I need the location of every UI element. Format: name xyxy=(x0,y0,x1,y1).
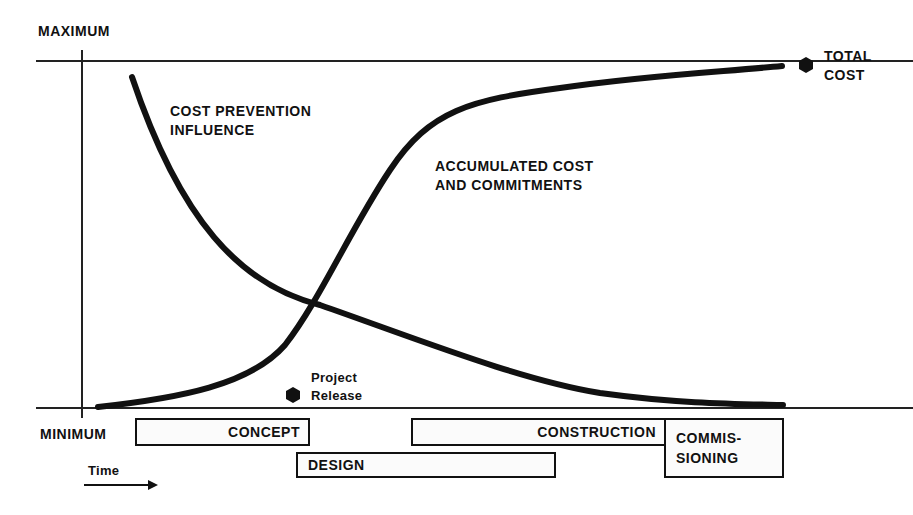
project-release-marker-icon xyxy=(286,387,300,403)
maximum-label: MAXIMUM xyxy=(38,22,110,41)
time-arrow-icon xyxy=(148,480,158,490)
cost-prevention-label-line1: COST PREVENTION xyxy=(170,102,311,121)
phase-commissioning-label-line2: SIONING xyxy=(676,448,739,468)
phase-design: DESIGN xyxy=(296,452,556,478)
total-cost-label-line1: TOTAL xyxy=(824,47,872,66)
total-cost-label-line2: COST xyxy=(824,66,865,85)
minimum-label: MINIMUM xyxy=(40,425,107,444)
total-cost-marker-icon xyxy=(799,57,813,73)
cost-prevention-label-line2: INFLUENCE xyxy=(170,121,255,140)
phase-concept-label: CONCEPT xyxy=(228,424,300,440)
phase-construction-label: CONSTRUCTION xyxy=(537,424,656,440)
phase-concept: CONCEPT xyxy=(135,418,310,446)
time-label: Time xyxy=(88,462,119,480)
accumulated-cost-label-line2: AND COMMITMENTS xyxy=(435,176,583,195)
phase-commissioning-label-line1: COMMIS- xyxy=(676,428,742,448)
project-release-label-line1: Project xyxy=(311,369,357,387)
accumulated-cost-label-line1: ACCUMULATED COST xyxy=(435,157,594,176)
phase-design-label: DESIGN xyxy=(308,457,365,473)
phase-construction: CONSTRUCTION xyxy=(411,418,666,446)
phase-commissioning: COMMIS- SIONING xyxy=(664,418,784,478)
project-release-label-line2: Release xyxy=(311,387,362,405)
